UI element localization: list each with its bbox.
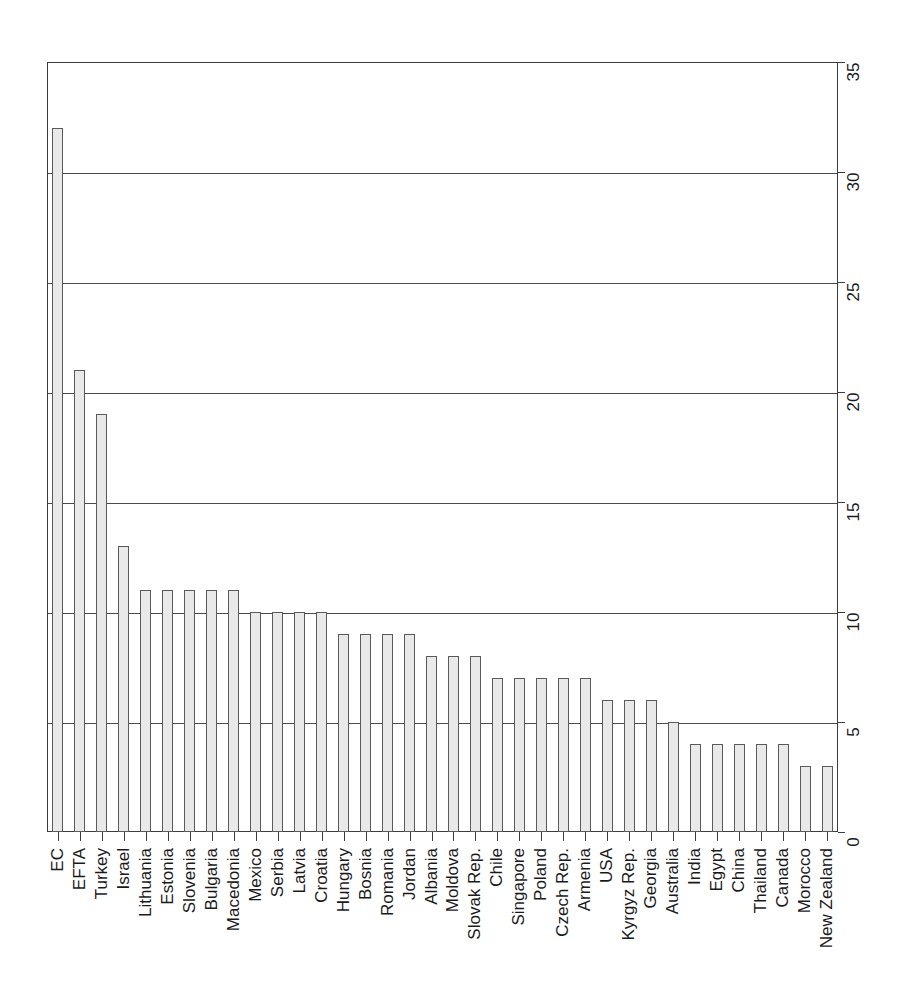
x-tick-label-text: Georgia bbox=[642, 848, 660, 908]
x-tick-label: Poland bbox=[541, 795, 559, 848]
bar bbox=[52, 128, 63, 832]
x-tick-label: Serbia bbox=[278, 799, 296, 848]
x-tick-label-text: China bbox=[730, 848, 748, 892]
x-tick-label: Latvia bbox=[300, 803, 318, 848]
x-tick-label: Lithuania bbox=[146, 779, 164, 848]
x-tick-label: Armenia bbox=[585, 785, 603, 848]
y-tick-label-10: 10 bbox=[844, 595, 864, 649]
x-tick-label-text: Hungary bbox=[335, 848, 353, 912]
x-tick-label-text: India bbox=[686, 848, 704, 885]
x-tick-label-text: Israel bbox=[115, 848, 133, 890]
x-tick-label-text: Slovenia bbox=[181, 848, 199, 913]
x-tick-label: Slovak Rep. bbox=[475, 756, 493, 848]
x-tick-label-text: Singapore bbox=[510, 848, 528, 926]
x-tick-label-text: Macedonia bbox=[225, 848, 243, 931]
x-tick-label-text: Romania bbox=[379, 848, 397, 916]
y-tick-label-0: 0 bbox=[844, 815, 864, 869]
x-tick-label: Turkey bbox=[102, 797, 120, 848]
x-tick-label-text: Albania bbox=[423, 848, 441, 905]
x-tick-label: EFTA bbox=[80, 806, 98, 848]
bar bbox=[74, 370, 85, 832]
x-tick-label-text: Moldova bbox=[444, 848, 462, 912]
x-tick-label-text: Morocco bbox=[796, 848, 814, 913]
x-tick-label: Mexico bbox=[256, 794, 274, 848]
x-tick-label: Albania bbox=[432, 791, 450, 848]
x-tick-label: EC bbox=[58, 824, 76, 848]
x-tick-label-text: Bosnia bbox=[357, 848, 375, 900]
x-tick-label-text: Kyrgyz Rep. bbox=[620, 848, 638, 941]
x-tick-label-text: Croatia bbox=[313, 848, 331, 903]
x-tick-label: Bulgaria bbox=[212, 786, 230, 848]
x-tick-label-text: Chile bbox=[488, 848, 506, 887]
x-tick-label: Estonia bbox=[168, 791, 186, 848]
x-tick-label: India bbox=[695, 811, 713, 848]
x-tick-label-text: Mexico bbox=[247, 848, 265, 902]
x-tick-label: Israel bbox=[124, 806, 142, 848]
y-tick-label-5: 5 bbox=[844, 705, 864, 759]
x-tick-label: Moldova bbox=[453, 784, 471, 848]
x-tick-label: Morocco bbox=[805, 783, 823, 848]
x-tick-label: Kyrgyz Rep. bbox=[629, 755, 647, 848]
x-tick-label-text: Poland bbox=[532, 848, 550, 901]
y-tick-label-30: 30 bbox=[844, 155, 864, 209]
x-tick-label: Egypt bbox=[717, 805, 735, 848]
x-tick-label: USA bbox=[607, 813, 625, 848]
x-tick-label: Slovenia bbox=[190, 783, 208, 848]
x-tick-label-text: Thailand bbox=[752, 848, 770, 913]
x-tick-label: New Zealand bbox=[827, 748, 845, 848]
x-tick-label: Australia bbox=[673, 782, 691, 848]
x-tick-label-text: Jordan bbox=[401, 848, 419, 900]
x-tick-label-text: Czech Rep. bbox=[554, 848, 572, 937]
x-tick-label-text: Slovak Rep. bbox=[466, 848, 484, 940]
x-tick-label-text: Lithuania bbox=[137, 848, 155, 917]
x-tick-label: Macedonia bbox=[234, 765, 252, 848]
x-tick-label: Romania bbox=[388, 780, 406, 848]
bar bbox=[96, 414, 107, 832]
x-tick-label: China bbox=[739, 804, 757, 848]
bar bbox=[118, 546, 129, 832]
x-tick-label-text: Latvia bbox=[291, 848, 309, 893]
x-tick-label: Bosnia bbox=[366, 796, 384, 848]
x-tick-label-text: Australia bbox=[664, 848, 682, 914]
bar-chart: 05101520253035 ECEFTATurkeyIsraelLithuan… bbox=[0, 0, 922, 998]
bars-layer bbox=[47, 62, 838, 832]
x-tick-label: Canada bbox=[783, 788, 801, 848]
y-tick-label-35: 35 bbox=[844, 45, 864, 99]
x-tick-label-text: EC bbox=[49, 848, 67, 872]
y-axis: 05101520253035 bbox=[838, 62, 922, 832]
y-tick-label-20: 20 bbox=[844, 375, 864, 429]
y-tick-label-15: 15 bbox=[844, 485, 864, 539]
x-tick-label-text: Canada bbox=[774, 848, 792, 908]
x-tick-label-text: Turkey bbox=[93, 848, 111, 899]
y-tick-label-25: 25 bbox=[844, 265, 864, 319]
x-tick-label: Czech Rep. bbox=[563, 759, 581, 848]
x-tick-label: Hungary bbox=[344, 784, 362, 848]
x-tick-label: Croatia bbox=[322, 793, 340, 848]
x-tick-label-text: Egypt bbox=[708, 848, 726, 891]
x-tick-label-text: Estonia bbox=[159, 848, 177, 905]
x-tick-label-text: EFTA bbox=[71, 848, 89, 890]
x-tick-label-text: Serbia bbox=[269, 848, 287, 897]
x-tick-label: Thailand bbox=[761, 783, 779, 848]
x-axis: ECEFTATurkeyIsraelLithuaniaEstoniaSloven… bbox=[47, 832, 838, 998]
x-tick-label-text: Bulgaria bbox=[203, 848, 221, 910]
x-tick-label: Singapore bbox=[519, 770, 537, 848]
x-tick-label: Jordan bbox=[410, 796, 428, 848]
x-tick-label-text: USA bbox=[598, 848, 616, 883]
x-tick-label: Georgia bbox=[651, 788, 669, 848]
x-tick-label-text: New Zealand bbox=[818, 848, 836, 948]
x-tick-label-text: Armenia bbox=[576, 848, 594, 911]
x-tick-label: Chile bbox=[497, 809, 515, 848]
